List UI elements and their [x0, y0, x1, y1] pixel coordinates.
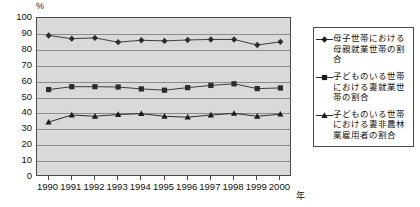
x-axis-tick [210, 176, 211, 180]
y-axis-tick-label: 60 [0, 76, 32, 86]
x-axis-tick [48, 176, 49, 180]
x-axis-tick [71, 176, 72, 180]
data-point-square [278, 85, 283, 90]
x-axis-tick [187, 176, 188, 180]
data-point-square [255, 86, 260, 91]
x-axis-tick [164, 176, 165, 180]
x-axis-tick-label: 1995 [153, 181, 174, 192]
x-axis-unit-label: 年 [296, 189, 305, 202]
data-point-diamond [92, 35, 98, 41]
legend-key-marker [320, 73, 329, 82]
legend-item-3[interactable]: 子どものいる世帯における妻非農林業雇用者の割合 [316, 109, 410, 141]
data-point-diamond [254, 42, 260, 48]
x-axis-tick-label: 1999 [246, 181, 267, 192]
y-axis-tick-label: 0 [0, 171, 32, 181]
x-axis-tick-label: 1993 [107, 181, 128, 192]
x-axis-tick-label: 1990 [37, 181, 58, 192]
data-point-diamond [185, 37, 191, 43]
y-axis-tick-label: 100 [0, 12, 32, 22]
legend-key-marker [320, 35, 329, 44]
data-point-diamond [162, 38, 168, 44]
triangle-marker-icon [316, 110, 333, 121]
data-point-square [208, 83, 213, 88]
data-point-square [46, 87, 51, 92]
y-axis-tick-label: 90 [0, 28, 32, 38]
data-point-diamond [231, 36, 237, 42]
data-point-square [116, 84, 121, 89]
series-1 [46, 32, 284, 48]
series-2 [46, 81, 283, 93]
data-point-square [231, 81, 236, 86]
legend-item-1[interactable]: 母子世帯における母親就業世帯の割合 [316, 33, 410, 65]
y-axis-tick-label: 20 [0, 139, 32, 149]
y-axis-tick-label: 80 [0, 44, 32, 54]
chart-legend: 母子世帯における母親就業世帯の割合子どものいる世帯における妻就業世帯の割合子ども… [313, 27, 414, 147]
legend-key-marker [320, 111, 329, 120]
y-axis-tick-label: 70 [0, 60, 32, 70]
data-point-triangle [69, 112, 75, 118]
legend-item-label: 子どものいる世帯における妻非農林業雇用者の割合 [333, 109, 410, 141]
data-point-diamond [69, 35, 75, 41]
x-axis-tick [94, 176, 95, 180]
data-point-square [92, 84, 97, 89]
y-axis-tick-label: 10 [0, 155, 32, 165]
x-axis-tick [117, 176, 118, 180]
line-chart-figure: % 年 1009080706050403020100 1990199119921… [0, 0, 420, 207]
series-layer [37, 18, 292, 177]
square-marker-icon [316, 72, 333, 83]
x-axis-tick [233, 176, 234, 180]
y-axis-unit-label: % [36, 1, 44, 11]
data-point-triangle [231, 110, 237, 116]
x-axis-tick-label: 1994 [130, 181, 151, 192]
data-point-diamond [322, 36, 328, 42]
data-point-square [185, 85, 190, 90]
legend-item-label: 母子世帯における母親就業世帯の割合 [333, 33, 410, 65]
data-point-diamond [115, 39, 121, 45]
data-point-square [139, 86, 144, 91]
data-point-triangle [138, 111, 144, 117]
data-point-triangle [277, 111, 283, 117]
x-axis-tick-label: 1992 [83, 181, 104, 192]
data-point-diamond [208, 36, 214, 42]
diamond-marker-icon [316, 34, 333, 45]
x-axis-tick-label: 1998 [222, 181, 243, 192]
y-axis-tick-label: 30 [0, 123, 32, 133]
legend-item-label: 子どものいる世帯における妻就業世帯の割合 [333, 71, 410, 103]
x-axis-tick-label: 1997 [199, 181, 220, 192]
y-axis-tick-label: 40 [0, 107, 32, 117]
plot-area [36, 17, 291, 176]
data-point-diamond [138, 37, 144, 43]
series-3 [45, 110, 283, 124]
data-point-diamond [46, 32, 52, 38]
x-axis-tick [140, 176, 141, 180]
data-point-square [322, 75, 327, 80]
data-point-square [69, 84, 74, 89]
data-point-diamond [277, 39, 283, 45]
x-axis-tick-label: 1991 [60, 181, 81, 192]
x-axis-tick [279, 176, 280, 180]
data-point-square [162, 88, 167, 93]
legend-item-2[interactable]: 子どものいる世帯における妻就業世帯の割合 [316, 71, 410, 103]
x-axis-tick [256, 176, 257, 180]
x-axis-tick-label: 1996 [176, 181, 197, 192]
x-axis-tick-label: 2000 [269, 181, 290, 192]
y-axis-tick-label: 50 [0, 92, 32, 102]
data-point-triangle [321, 112, 327, 118]
